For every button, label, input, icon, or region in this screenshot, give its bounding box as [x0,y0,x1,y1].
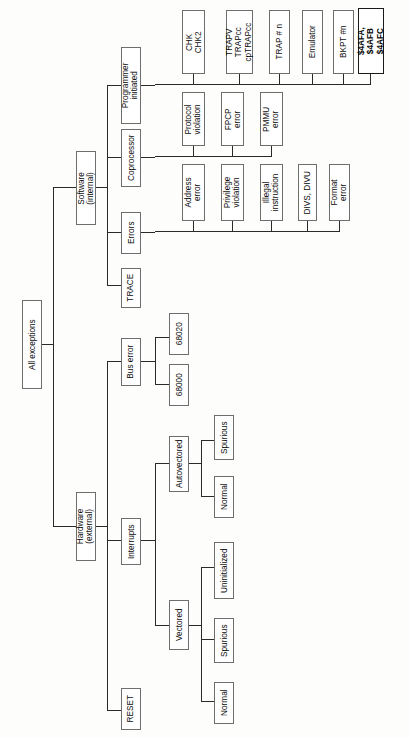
node-vectored-spurious[interactable]: Spurious [214,618,234,663]
node-vectored[interactable]: Vectored [169,600,189,650]
node-autovectored-spurious[interactable]: Spurious [214,415,234,460]
node-label: TRACE [126,274,135,302]
node-label: Uninitialized [219,548,228,592]
connector-main-trunk [53,187,54,527]
connector-autovectored-trunk [201,440,202,497]
connector-errors-leaf-1 [193,221,194,232]
connector-trunk-hardware [53,526,76,527]
node-label: 68000 [174,374,183,397]
connector-hardware-trunk [107,361,108,711]
node-label: Vectored [174,609,183,641]
connector-coprocessor-leaf-2 [232,146,233,157]
connector-interrupts-trunk [155,463,156,626]
node-label: Errors [126,222,135,244]
node-label: BKPT #n [339,26,348,59]
node-illegal-instruction[interactable]: Illegal instruction [260,164,283,221]
node-vectored-normal[interactable]: Normal [214,682,234,724]
connector-buserror-trunk [155,337,156,385]
node-label: 68020 [174,323,183,346]
node-label: Autovectored [174,440,183,489]
node-label: PMMU error [262,106,281,131]
connector-programmer-leaf-2 [239,74,240,85]
connector-programmer-stub [141,85,155,86]
node-label: Hardware (external) [77,509,96,545]
connector-software-programmer [107,85,121,86]
connector-hardware-buserror [107,361,121,362]
node-format-error[interactable]: Format error [329,164,350,221]
connector-interrupts-vectored [155,625,169,626]
node-trapv-trapcc[interactable]: TRAPV TRAPcc cpTRAPcc [226,10,253,74]
connector-errors-leaf-3 [271,221,272,232]
node-label: Address error [184,177,203,207]
connector-software-coprocessor [107,157,121,158]
node-label: Illegal instruction [262,174,281,212]
node-privilege-violation[interactable]: Privilege violation [221,164,244,221]
connector-software-trace [107,285,121,286]
node-label: Spurious [219,624,228,656]
connector-errors-leaf-5 [339,221,340,232]
connector-programmer-leaf-3 [279,74,280,85]
node-errors[interactable]: Errors [121,212,141,254]
connector-coprocessor-stub [141,157,155,158]
node-label: Normal [219,690,228,717]
node-label: Coprocessor [126,135,135,182]
node-trap-n[interactable]: TRAP # n [269,10,290,74]
connector-errors-leaf-4 [307,221,308,232]
node-label: Emulator [308,26,317,59]
node-emulator[interactable]: Emulator [302,10,323,74]
node-label: Interrupts [126,524,135,559]
exception-tree-diagram: All exceptions Software (internal) Hardw… [0,0,409,738]
node-bus-error[interactable]: Bus error [121,338,141,386]
node-chk-chk2[interactable]: CHK CHK2 [182,10,205,74]
connector-buserror-68020 [155,337,169,338]
connector-programmer-leaf-4 [312,74,313,85]
node-label: Format error [330,179,349,205]
connector-programmer-bus [155,84,370,85]
node-68020[interactable]: 68020 [169,313,189,355]
connector-vectored-trunk [201,567,202,702]
connector-hardware-reset [107,710,121,711]
node-coprocessor[interactable]: Coprocessor [121,129,141,187]
node-label: TRAPV TRAPcc cpTRAPcc [225,23,253,62]
connector-errors-bus [155,231,340,232]
node-label: All exceptions [27,319,36,370]
node-label: Spurious [219,421,228,453]
node-address-error[interactable]: Address error [182,164,205,221]
node-label: CHK CHK2 [184,31,203,53]
connector-software-trunk [107,85,108,285]
connector-buserror-68000 [155,384,169,385]
node-4afa-4afb-4afc[interactable]: $4AFA, $4AFB $4AFC [358,8,384,74]
node-protocol-violation[interactable]: Protocol violation [182,92,205,146]
node-divs-divu[interactable]: DIVS, DIVU [298,164,317,221]
connector-vectored-spurious [201,639,214,640]
node-hardware-external[interactable]: Hardware (external) [76,492,96,561]
node-software-internal[interactable]: Software (internal) [76,151,96,225]
node-all-exceptions[interactable]: All exceptions [22,300,42,389]
connector-trunk-software [53,187,76,188]
connector-coprocessor-leaf-3 [271,146,272,157]
node-autovectored-normal[interactable]: Normal [214,476,234,518]
node-vectored-uninitialized[interactable]: Uninitialized [214,542,234,599]
connector-coprocessor-bus [155,156,272,157]
node-autovectored[interactable]: Autovectored [169,436,189,492]
node-programmer-initiated[interactable]: Programmer initiated [121,47,141,124]
node-trace[interactable]: TRACE [121,268,141,308]
node-label: Privilege violation [223,177,242,209]
connector-autovectored-spurious [201,440,214,441]
node-label: Bus error [126,345,135,379]
node-label: FPCP error [223,108,242,130]
node-interrupts[interactable]: Interrupts [121,518,141,565]
connector-vectored-normal [201,701,214,702]
node-label: $4AFA, $4AFB $4AFC [357,27,385,55]
node-label: DIVS, DIVU [303,171,312,214]
node-68000[interactable]: 68000 [169,364,189,406]
connector-coprocessor-leaf-1 [193,146,194,157]
node-label: Protocol violation [184,104,203,134]
node-reset[interactable]: RESET [121,688,141,730]
node-bkpt-n[interactable]: BKPT #n [333,10,354,74]
node-pmmu-error[interactable]: PMMU error [260,92,283,146]
node-fpcp-error[interactable]: FPCP error [221,92,244,146]
connector-programmer-leaf-1 [193,74,194,85]
node-label: RESET [126,695,135,722]
connector-autovectored-normal [201,496,214,497]
